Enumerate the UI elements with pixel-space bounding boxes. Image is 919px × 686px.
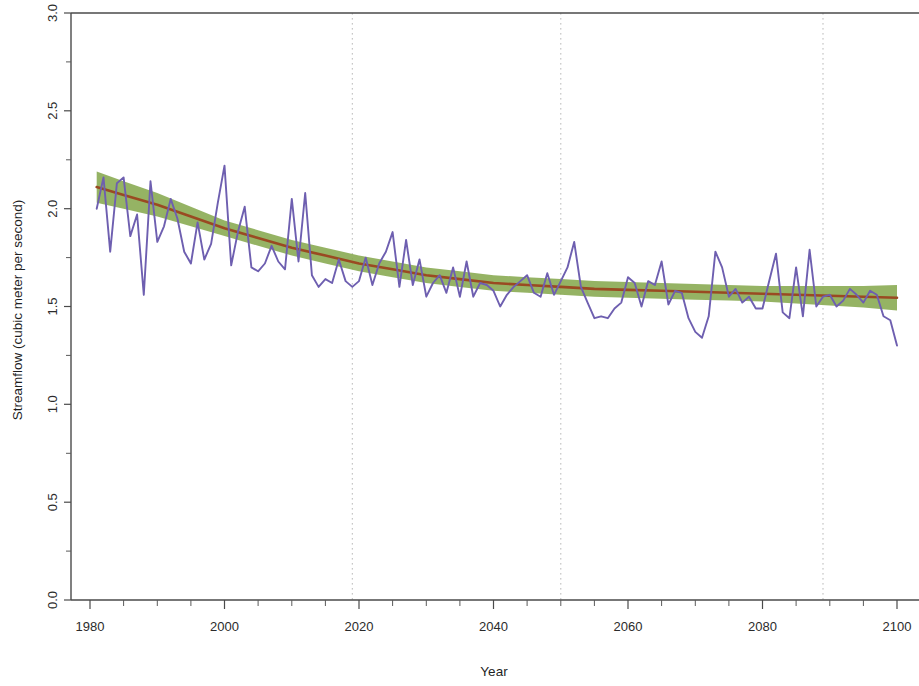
- y-tick-label-1.5: 1.5: [45, 297, 60, 315]
- y-tick-label-0.0: 0.0: [45, 591, 60, 609]
- streamflow-projection-chart: 0.00.51.01.52.02.53.01980200020202040206…: [0, 0, 919, 686]
- x-tick-label-2060: 2060: [614, 619, 643, 634]
- y-tick-label-1.0: 1.0: [45, 395, 60, 413]
- y-tick-label-3.0: 3.0: [45, 4, 60, 22]
- x-tick-label-2040: 2040: [479, 619, 508, 634]
- x-tick-label-1980: 1980: [76, 619, 105, 634]
- y-tick-label-2.0: 2.0: [45, 200, 60, 218]
- chart-background: [0, 0, 919, 686]
- x-tick-label-2000: 2000: [210, 619, 239, 634]
- y-tick-label-2.5: 2.5: [45, 102, 60, 120]
- x-axis-title: Year: [480, 664, 508, 679]
- x-tick-label-2080: 2080: [748, 619, 777, 634]
- x-tick-label-2020: 2020: [345, 619, 374, 634]
- chart-figure: 0.00.51.01.52.02.53.01980200020202040206…: [0, 0, 919, 686]
- y-axis-title: Streamflow (cubic meter per second): [10, 200, 25, 421]
- y-tick-label-0.5: 0.5: [45, 493, 60, 511]
- x-tick-label-2100: 2100: [883, 619, 912, 634]
